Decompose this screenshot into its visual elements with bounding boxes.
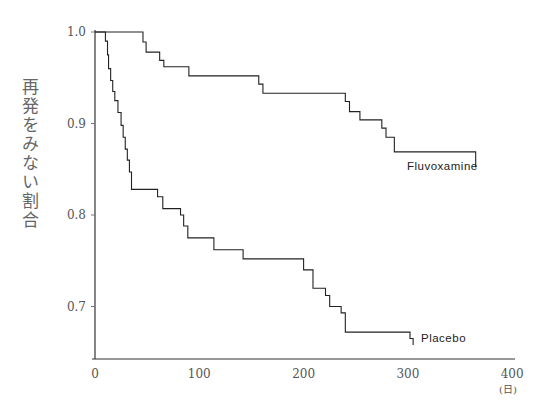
x-tick-label: 300 [396,367,419,381]
x-tick-label: 200 [292,367,315,381]
kaplan-meier-chart: 0.70.80.91.0 0100200300400 Fluvoxamine P… [0,0,538,413]
x-tick-label: 100 [188,367,211,381]
y-tick-label: 1.0 [67,25,86,39]
y-tick-label: 0.8 [67,208,86,222]
series-lines [95,32,476,345]
placebo-curve [95,32,413,345]
x-tick-label: 400 [501,367,524,381]
fluvoxamine-label: Fluvoxamine [407,160,478,172]
x-ticks: 0100200300400 [91,367,523,381]
x-tick-label: 0 [91,367,99,381]
y-tick-label: 0.9 [67,117,86,131]
axes [92,30,515,359]
placebo-label: Placebo [421,332,466,344]
x-unit-label: (日) [499,384,517,395]
y-ticks: 0.70.80.91.0 [67,25,95,314]
y-tick-label: 0.7 [67,300,86,314]
fluvoxamine-curve [95,32,476,167]
